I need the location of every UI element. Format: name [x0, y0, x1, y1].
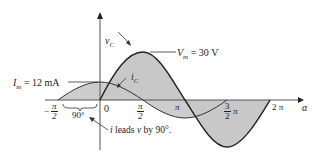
tick-half-pi: π2: [137, 102, 144, 121]
vm-label: Vm = 30 V: [177, 48, 218, 61]
im-label: Im = 12 mA: [13, 78, 60, 91]
annotation-arrow-icon: [89, 117, 95, 122]
tick-three-half: 32: [224, 102, 231, 121]
tick-zero: 0: [104, 104, 109, 114]
v-axis-arrow-icon: [97, 12, 103, 19]
alpha-label: α: [302, 103, 307, 113]
ic-label: iC: [131, 72, 138, 85]
tick-three-half-pi: π: [233, 107, 238, 116]
phase-gap-label: 90°: [72, 111, 85, 120]
vc-label: vC: [105, 36, 114, 49]
tick-pi: π: [175, 103, 180, 112]
tick-two-pi: 2 π: [272, 103, 283, 112]
tick-neg-half-pi: π2: [51, 102, 58, 121]
annotation: i leads v by 90°.: [110, 126, 171, 136]
tick-neg-sign: −: [44, 107, 49, 116]
